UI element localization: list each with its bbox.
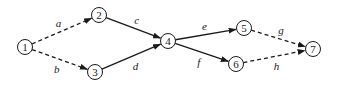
node-label: 6 [233, 58, 239, 70]
edge-label-c: c [134, 14, 139, 26]
edge-label-f: f [197, 56, 202, 68]
node-4: 4 [161, 34, 176, 49]
node-label: 4 [165, 35, 171, 47]
node-label: 7 [310, 43, 316, 55]
edge-label-e: e [202, 20, 207, 32]
node-label: 2 [96, 9, 102, 21]
edge-label-h: h [274, 60, 280, 72]
edge-label-a: a [56, 17, 62, 29]
node-7: 7 [306, 42, 321, 57]
node-label: 5 [241, 22, 247, 34]
edge-a [32, 18, 92, 44]
edge-f [175, 43, 228, 61]
edge-d [102, 44, 161, 69]
node-label: 1 [22, 41, 28, 53]
node-3: 3 [88, 65, 103, 80]
node-label: 3 [92, 66, 98, 78]
edge-label-g: g [278, 24, 284, 36]
edge-b [32, 50, 87, 70]
node-6: 6 [229, 57, 244, 72]
edge-label-b: b [54, 63, 60, 75]
node-5: 5 [237, 21, 252, 36]
edge-label-d: d [133, 60, 139, 72]
network-diagram: abcdefgh 1234567 [0, 0, 338, 85]
node-1: 1 [18, 40, 33, 55]
node-2: 2 [92, 8, 107, 23]
